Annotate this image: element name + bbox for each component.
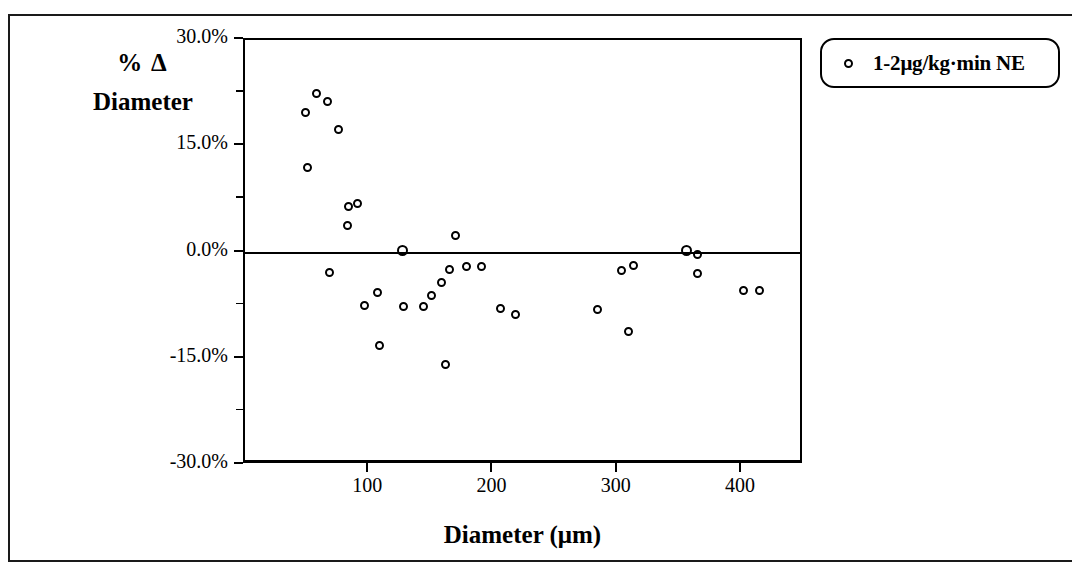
legend-label: 1-2μg/kg·min NE [873,51,1025,76]
data-point-marker [681,245,692,256]
x-axis-tick-label-text: 400 [705,474,775,497]
x-axis-tick-label-text: 200 [456,474,526,497]
y-axis-tick [234,37,243,39]
x-axis-tick [490,463,492,472]
data-point-marker [441,360,450,369]
legend-open-circle-icon [844,59,853,68]
x-axis-tick-label: 100 [332,474,402,500]
x-axis-tick [615,463,617,472]
x-axis-tick [366,463,368,472]
data-point-marker [312,89,321,98]
data-point-marker [353,199,362,208]
y-axis-title-line2: Diameter [58,83,228,122]
y-axis-tick-label: 30.0% [118,25,228,49]
chart-legend: 1-2μg/kg·min NE [820,38,1060,88]
y-axis-tick-label-text: 0.0% [118,238,228,261]
data-point-marker [343,221,352,230]
y-axis-tick [234,462,243,464]
x-axis-tick-label: 300 [581,474,651,500]
y-axis-tick-label: -30.0% [118,450,228,474]
y-axis-minor-tick [236,409,243,411]
data-point-marker [373,288,382,297]
data-point-marker [496,304,505,313]
data-point-marker [629,261,638,270]
data-point-marker [451,231,460,240]
data-point-marker [419,302,428,311]
y-axis-tick-label-text: 15.0% [118,131,228,154]
y-axis-minor-tick [236,303,243,305]
data-point-marker [399,302,408,311]
y-axis-tick [234,356,243,358]
y-axis-tick [234,143,243,145]
scatter-chart: % Δ Diameter Diameter (μm) 30.0%15.0%0.0… [0,0,1079,570]
y-axis-minor-tick [236,90,243,92]
y-axis-tick-label: -15.0% [118,344,228,368]
data-point-marker [739,286,748,295]
data-point-marker [334,125,343,134]
data-point-marker [375,341,384,350]
y-axis-tick-label-text: -15.0% [118,344,228,367]
data-point-marker [397,245,408,256]
x-axis-tick-label-text: 300 [581,474,651,497]
y-axis-tick [234,250,243,252]
data-point-marker [755,286,764,295]
y-axis-tick-label-text: -30.0% [118,450,228,473]
y-axis-tick-label: 15.0% [118,131,228,155]
data-point-marker [462,262,471,271]
zero-baseline [243,252,802,254]
data-point-marker [593,305,602,314]
data-point-marker [511,310,520,319]
figure-page: % Δ Diameter Diameter (μm) 30.0%15.0%0.0… [0,0,1079,570]
y-axis-tick-label-text: 30.0% [118,25,228,48]
x-axis-title: Diameter (μm) [243,521,802,549]
x-axis-tick-label: 200 [456,474,526,500]
data-point-marker [445,265,454,274]
y-axis-minor-tick [236,196,243,198]
y-axis-title: % Δ Diameter [58,44,228,122]
x-axis-tick-label: 400 [705,474,775,500]
data-point-marker [301,108,310,117]
data-point-marker [693,269,702,278]
x-axis-tick [739,463,741,472]
x-axis-tick-label-text: 100 [332,474,402,497]
y-axis-tick-label: 0.0% [118,238,228,262]
y-axis-title-line1: % Δ [58,44,228,83]
